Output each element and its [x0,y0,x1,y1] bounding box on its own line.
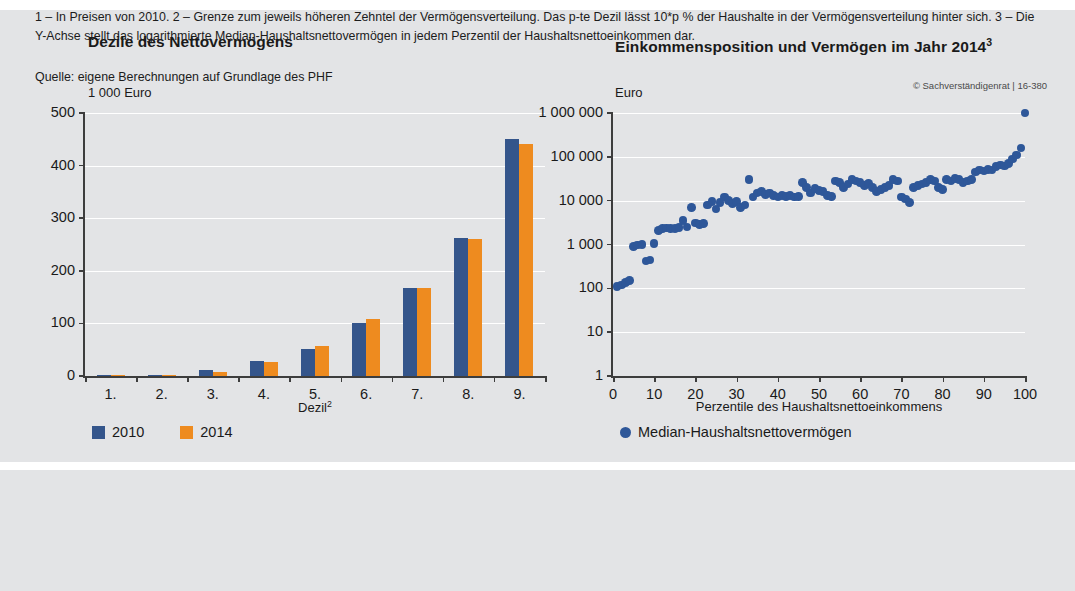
bar-2010-decile-4 [250,361,264,376]
x-tick-mark [289,376,291,382]
x-tick-mark [901,376,903,382]
scatter-point [967,175,976,184]
x-tick-mark [654,376,656,382]
right-chart-y-unit: Euro [615,85,642,100]
y-tick-label: 100 [7,314,75,330]
gridline [85,166,545,167]
x-tick-mark [1025,376,1027,382]
x-tick-mark [984,376,986,382]
x-tick-label: 3. [191,386,235,402]
source-text: Quelle: eigene Berechnungen auf Grundlag… [35,70,333,84]
y-tick-label: 1 000 [487,236,603,252]
y-tick-label: 100 000 [487,148,603,164]
gridline [613,201,1025,202]
legend-label-2014: 2014 [200,424,232,440]
scatter-point [650,239,659,248]
x-tick-mark [341,376,343,382]
x-tick-mark [943,376,945,382]
bar-2014-decile-5 [315,346,329,377]
x-tick-mark [819,376,821,382]
bar-2014-decile-4 [264,362,278,376]
y-axis-line [611,113,613,377]
scatter-point [625,276,634,285]
legend-swatch-2014-icon [180,426,193,439]
scatter-point [827,192,836,201]
x-tick-mark [85,376,87,382]
gridline [613,332,1025,333]
x-tick-mark [737,376,739,382]
x-tick-mark [136,376,138,382]
bar-2014-decile-1 [111,375,125,376]
bar-2014-decile-9 [519,144,533,376]
right-chart-legend: Median-Haushaltsnettovermögen [620,424,852,440]
x-tick-label: 1. [89,386,133,402]
legend-label-median-wealth: Median-Haushaltsnettovermögen [638,424,852,440]
x-tick-mark [613,376,615,382]
scatter-point [1012,151,1021,160]
legend-item-median-wealth: Median-Haushaltsnettovermögen [620,424,852,440]
bar-2014-decile-8 [468,239,482,376]
left-chart-legend: 2010 2014 [92,424,233,440]
x-tick-label: 9. [497,386,541,402]
footnotes-text: 1 – In Preisen von 2010. 2 – Grenze zum … [35,8,1045,46]
x-tick-mark [392,376,394,382]
bar-2014-decile-3 [213,372,227,376]
legend-swatch-2010-icon [92,426,105,439]
gridline [613,157,1025,158]
bar-2010-decile-5 [301,349,315,376]
bar-2014-decile-6 [366,319,380,376]
footnotes-panel [0,470,1075,591]
y-axis-line [83,113,85,377]
x-tick-label: 7. [395,386,439,402]
x-tick-mark [443,376,445,382]
scatter-point [1017,144,1026,153]
x-tick-mark [778,376,780,382]
gridline [85,218,545,219]
bar-2010-decile-8 [454,238,468,376]
scatter-point [687,203,696,212]
panel-divider [0,462,1075,470]
legend-item-2010: 2010 [92,424,144,440]
bar-2010-decile-6 [352,323,366,376]
y-tick-label: 0 [7,367,75,383]
x-tick-label: 8. [446,386,490,402]
scatter-point [938,185,947,194]
y-tick-label: 10 [487,323,603,339]
y-tick-label: 200 [7,262,75,278]
gridline [613,245,1025,246]
y-tick-label: 10 000 [487,192,603,208]
x-tick-label: 100 [1003,386,1047,402]
bar-2010-decile-1 [97,375,111,376]
legend-dot-icon [620,427,631,438]
scatter-point [638,240,647,249]
y-tick-label: 100 [487,279,603,295]
x-tick-mark [238,376,240,382]
left-chart-x-axis-label: Dezil2 [235,399,395,415]
gridline [85,113,545,114]
copyright-text: © Sachverständigenrat | 16-380 [913,80,1047,91]
x-axis-label-text: Dezil [298,400,327,415]
scatter-point [646,256,655,265]
x-axis-line [83,376,545,378]
right-chart-x-axis-label: Perzentile des Haushaltsnettoeinkommens [639,399,999,414]
bar-2010-decile-7 [403,288,417,376]
gridline [613,113,1025,114]
y-tick-label: 1 [487,367,603,383]
bar-2014-decile-2 [162,375,176,376]
bar-2014-decile-7 [417,288,431,376]
scatter-point [794,192,803,201]
scatter-point [893,177,902,186]
left-chart-plot-area: 01002003004005001.2.3.4.5.6.7.8.9. [85,113,545,376]
right-chart-plot-area: 1101001 00010 000100 0001 000 0000102030… [613,113,1025,376]
figure-root: Dezile des Nettovermögens 1 000 Euro 010… [0,0,1075,591]
y-tick-label: 500 [7,104,75,120]
x-tick-mark [860,376,862,382]
x-axis-label-superscript: 2 [327,399,332,409]
scatter-point [745,175,754,184]
bar-2010-decile-9 [505,139,519,376]
y-tick-label: 400 [7,157,75,173]
y-tick-label: 300 [7,209,75,225]
x-tick-mark [695,376,697,382]
legend-label-2010: 2010 [112,424,144,440]
left-chart-y-unit: 1 000 Euro [88,85,152,100]
